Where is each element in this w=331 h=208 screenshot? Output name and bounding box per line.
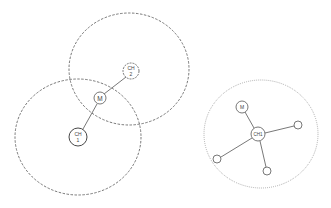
node-ch2: CH 2	[123, 63, 139, 79]
edge-ch1-leaf-right	[265, 126, 294, 133]
network-diagram: CH 2 M CH 1 CH1	[0, 0, 331, 208]
leaf-node-right	[294, 121, 302, 129]
leaf-node-bottom	[263, 167, 271, 175]
edge-ch1-leaf-bottom	[260, 141, 266, 167]
left-panel: CH 2 M CH 1	[15, 13, 189, 195]
node-ch2-label-2: 2	[130, 71, 133, 77]
node-m-right: M	[236, 101, 248, 113]
node-ch1-label-2: 1	[77, 137, 80, 143]
node-ch1-right-label: CH1	[253, 132, 262, 137]
node-ch1: CH 1	[69, 128, 87, 146]
edge-ch2-m	[104, 77, 126, 94]
edge-m-ch1	[83, 104, 97, 129]
node-m: M	[94, 92, 106, 104]
edge-ch1-leaf-left	[221, 138, 252, 157]
right-panel: CH1 M	[204, 80, 318, 188]
edge-m-ch1-right	[245, 112, 254, 128]
node-m-right-label: M	[240, 104, 244, 110]
leaf-node-left	[213, 155, 221, 163]
node-m-label: M	[97, 95, 102, 102]
node-ch1-right: CH1	[251, 127, 265, 141]
